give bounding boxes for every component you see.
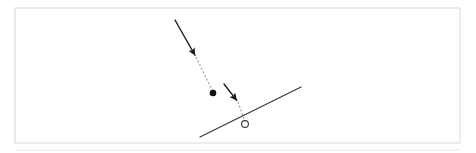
figure-border — [15, 8, 460, 143]
figure-container: A line diagram showing an arrow descendi… — [0, 0, 476, 153]
particle-dot — [210, 90, 217, 97]
diagram-canvas — [0, 0, 476, 153]
